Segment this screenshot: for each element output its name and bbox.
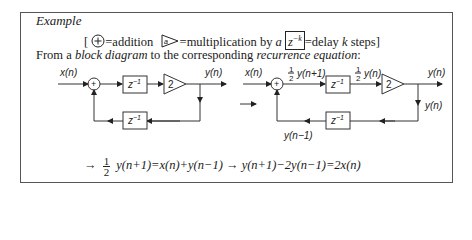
left-diagram (58, 74, 226, 129)
equation-1: y(n+1)=x(n)+y(n−1) (116, 158, 223, 172)
svg-text:y(n): y(n) (363, 68, 381, 79)
svg-text:y(n): y(n) (204, 67, 222, 78)
svg-text:y(n−1): y(n−1) (283, 130, 313, 141)
svg-text:2: 2 (168, 79, 174, 90)
svg-text:x(n): x(n) (244, 67, 262, 78)
svg-text:+: + (91, 79, 96, 89)
svg-text:2: 2 (386, 79, 392, 90)
svg-text:+: + (274, 79, 279, 89)
svg-text:y(n): y(n) (427, 67, 445, 78)
svg-text:y(n+1): y(n+1) (296, 68, 326, 79)
svg-text:2: 2 (356, 74, 361, 83)
svg-text:x(n): x(n) (59, 67, 77, 78)
svg-text:y(n): y(n) (424, 100, 442, 111)
equation-2: y(n+1)−2y(n−1)=2x(n) (242, 158, 361, 172)
svg-text:2: 2 (289, 74, 294, 83)
recurrence-equation: → 1 2 y(n+1)=x(n)+y(n−1) → y(n+1)−2y(n−1… (84, 156, 361, 177)
